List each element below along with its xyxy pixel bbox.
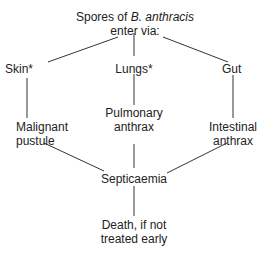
root-text: Spores of	[76, 10, 131, 24]
node-skin: Skin*	[5, 62, 33, 76]
node-lungs: Lungs*	[108, 62, 160, 76]
edge-root-skin	[48, 37, 118, 62]
node-outcome-death: Death, if not treated early	[96, 218, 172, 246]
organism-name: B. anthracis	[131, 10, 194, 24]
node-gut: Gut	[222, 62, 241, 76]
node-intestinal-anthrax: Intestinal anthrax	[205, 120, 261, 148]
node-malignant-pustule: Malignant pustule	[16, 120, 68, 148]
node-septicaemia: Septicaemia	[100, 172, 168, 186]
root-node: Spores of B. anthracis enter via:	[67, 10, 203, 38]
edge-root-gut	[163, 37, 228, 62]
root-subtext: enter via:	[67, 24, 203, 38]
node-pulmonary-anthrax: Pulmonary anthrax	[104, 106, 164, 134]
